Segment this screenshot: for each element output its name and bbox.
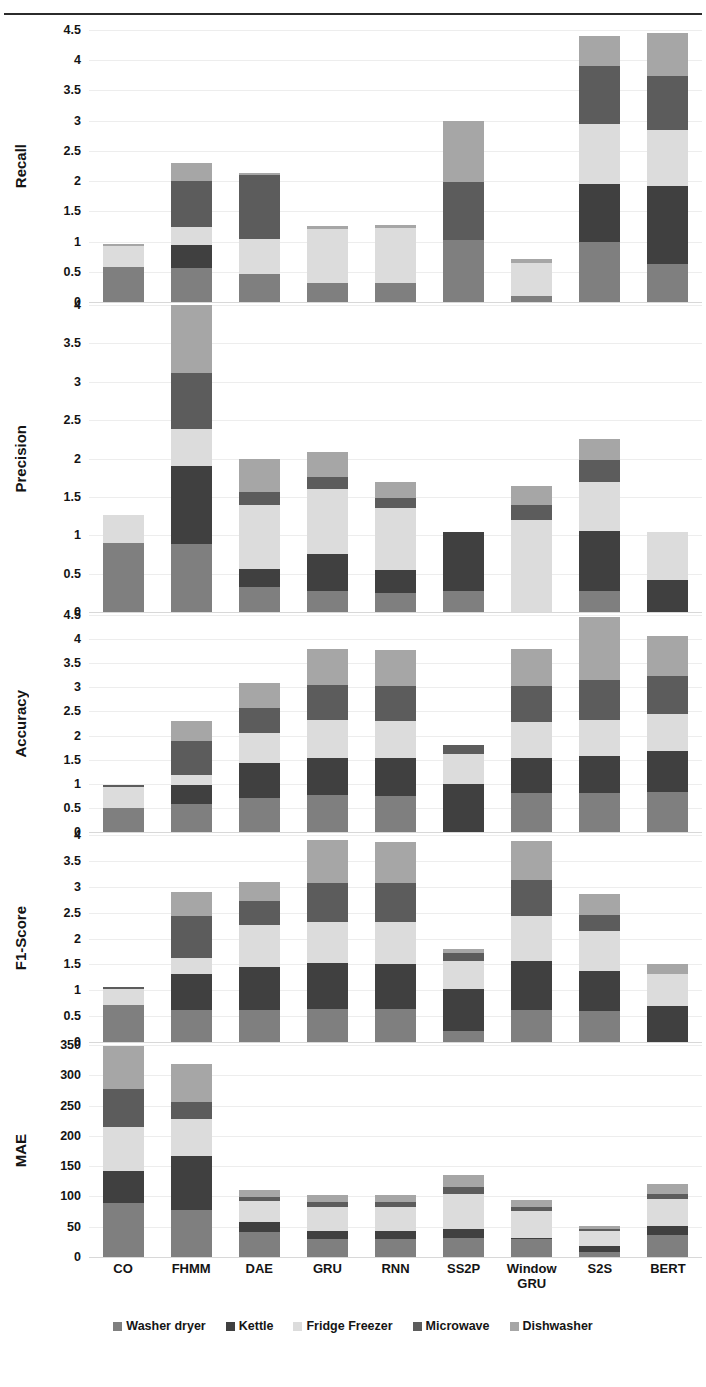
stacked-bar[interactable] xyxy=(307,840,348,1042)
stacked-bar[interactable] xyxy=(443,949,484,1042)
bar-segment[interactable] xyxy=(307,1195,348,1202)
bar-segment[interactable] xyxy=(307,1009,348,1042)
bar-segment[interactable] xyxy=(239,708,280,733)
legend-item[interactable]: Washer dryer xyxy=(113,1319,205,1333)
bar-segment[interactable] xyxy=(307,795,348,832)
stacked-bar[interactable] xyxy=(375,225,416,302)
bar-segment[interactable] xyxy=(443,182,484,241)
bar-segment[interactable] xyxy=(171,429,212,466)
bar-segment[interactable] xyxy=(647,76,688,130)
bar-segment[interactable] xyxy=(171,721,212,741)
bar-segment[interactable] xyxy=(239,274,280,302)
bar-segment[interactable] xyxy=(375,883,416,922)
bar-segment[interactable] xyxy=(103,989,144,1005)
bar-segment[interactable] xyxy=(375,593,416,612)
bar-segment[interactable] xyxy=(375,482,416,498)
bar-segment[interactable] xyxy=(579,1231,620,1246)
bar-segment[interactable] xyxy=(375,1009,416,1042)
bar-segment[interactable] xyxy=(375,508,416,569)
stacked-bar[interactable] xyxy=(239,1190,280,1257)
bar-segment[interactable] xyxy=(579,894,620,915)
bar-segment[interactable] xyxy=(103,1046,144,1089)
bar-segment[interactable] xyxy=(647,676,688,715)
bar-segment[interactable] xyxy=(647,1235,688,1257)
bar-segment[interactable] xyxy=(307,1231,348,1239)
bar-segment[interactable] xyxy=(239,967,280,1010)
bar-segment[interactable] xyxy=(239,505,280,569)
bar-segment[interactable] xyxy=(647,264,688,302)
bar-segment[interactable] xyxy=(579,1252,620,1257)
stacked-bar[interactable] xyxy=(443,532,484,612)
bar-segment[interactable] xyxy=(239,175,280,239)
stacked-bar[interactable] xyxy=(511,486,552,612)
bar-segment[interactable] xyxy=(375,498,416,508)
bar-segment[interactable] xyxy=(375,1207,416,1231)
stacked-bar[interactable] xyxy=(307,452,348,612)
bar-segment[interactable] xyxy=(375,228,416,284)
bar-segment[interactable] xyxy=(511,841,552,880)
bar-segment[interactable] xyxy=(579,680,620,720)
bar-segment[interactable] xyxy=(239,1232,280,1257)
bar-segment[interactable] xyxy=(239,798,280,832)
stacked-bar[interactable] xyxy=(239,882,280,1042)
bar-segment[interactable] xyxy=(443,532,484,591)
bar-segment[interactable] xyxy=(511,1010,552,1042)
stacked-bar[interactable] xyxy=(375,842,416,1042)
bar-segment[interactable] xyxy=(171,245,212,268)
stacked-bar[interactable] xyxy=(171,1064,212,1257)
bar-segment[interactable] xyxy=(579,1011,620,1042)
bar-segment[interactable] xyxy=(307,229,348,283)
bar-segment[interactable] xyxy=(171,785,212,804)
bar-segment[interactable] xyxy=(239,1222,280,1231)
stacked-bar[interactable] xyxy=(443,121,484,302)
bar-segment[interactable] xyxy=(239,492,280,506)
bar-segment[interactable] xyxy=(239,882,280,901)
bar-segment[interactable] xyxy=(375,922,416,964)
bar-segment[interactable] xyxy=(103,246,144,267)
bar-segment[interactable] xyxy=(103,1171,144,1202)
bar-segment[interactable] xyxy=(171,958,212,974)
bar-segment[interactable] xyxy=(171,804,212,832)
bar-segment[interactable] xyxy=(511,758,552,793)
bar-segment[interactable] xyxy=(307,720,348,758)
bar-segment[interactable] xyxy=(103,787,144,809)
bar-segment[interactable] xyxy=(647,130,688,186)
bar-segment[interactable] xyxy=(103,1089,144,1127)
bar-segment[interactable] xyxy=(307,649,348,686)
bar-segment[interactable] xyxy=(443,745,484,754)
bar-segment[interactable] xyxy=(103,1203,144,1258)
legend-item[interactable]: Microwave xyxy=(413,1319,490,1333)
bar-segment[interactable] xyxy=(171,974,212,1010)
bar-segment[interactable] xyxy=(443,1229,484,1238)
bar-segment[interactable] xyxy=(171,268,212,302)
bar-segment[interactable] xyxy=(375,1195,416,1202)
stacked-bar[interactable] xyxy=(511,259,552,302)
bar-segment[interactable] xyxy=(579,720,620,756)
legend-item[interactable]: Kettle xyxy=(226,1319,274,1333)
bar-segment[interactable] xyxy=(511,1239,552,1257)
bar-segment[interactable] xyxy=(375,842,416,883)
stacked-bar[interactable] xyxy=(511,649,552,832)
stacked-bar[interactable] xyxy=(579,1226,620,1257)
stacked-bar[interactable] xyxy=(307,1195,348,1257)
bar-segment[interactable] xyxy=(171,892,212,916)
bar-segment[interactable] xyxy=(171,741,212,775)
bar-segment[interactable] xyxy=(239,763,280,798)
bar-segment[interactable] xyxy=(511,1200,552,1207)
bar-segment[interactable] xyxy=(511,486,552,505)
bar-segment[interactable] xyxy=(579,482,620,531)
stacked-bar[interactable] xyxy=(171,892,212,1042)
bar-segment[interactable] xyxy=(375,650,416,686)
bar-segment[interactable] xyxy=(239,733,280,763)
bar-segment[interactable] xyxy=(239,1201,280,1223)
bar-segment[interactable] xyxy=(307,758,348,795)
bar-segment[interactable] xyxy=(171,1156,212,1209)
stacked-bar[interactable] xyxy=(443,1175,484,1257)
bar-segment[interactable] xyxy=(375,964,416,1009)
bar-segment[interactable] xyxy=(647,636,688,676)
bar-segment[interactable] xyxy=(171,544,212,612)
bar-segment[interactable] xyxy=(307,477,348,489)
bar-segment[interactable] xyxy=(375,1231,416,1239)
bar-segment[interactable] xyxy=(647,186,688,264)
bar-segment[interactable] xyxy=(579,66,620,124)
